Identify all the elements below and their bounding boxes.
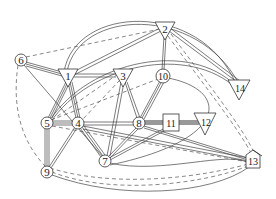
node-9[interactable]: 9 <box>41 166 53 178</box>
nodes: 1 2 3 4 5 6 7 8 <box>15 22 262 178</box>
svg-text:8: 8 <box>136 117 142 129</box>
svg-text:14: 14 <box>235 83 245 94</box>
edges <box>16 21 255 191</box>
node-2[interactable]: 2 <box>155 22 175 40</box>
svg-text:3: 3 <box>120 70 126 82</box>
node-1[interactable]: 1 <box>58 69 78 87</box>
node-3[interactable]: 3 <box>113 69 133 87</box>
node-5[interactable]: 5 <box>41 117 53 129</box>
node-10[interactable]: 10 <box>156 69 170 83</box>
svg-text:2: 2 <box>162 23 168 35</box>
svg-text:4: 4 <box>75 117 81 129</box>
node-4[interactable]: 4 <box>72 117 84 129</box>
node-6[interactable]: 6 <box>15 54 27 66</box>
node-14[interactable]: 14 <box>228 80 250 100</box>
node-8[interactable]: 8 <box>133 117 145 129</box>
svg-text:12: 12 <box>201 117 211 128</box>
node-13[interactable]: 13 <box>246 150 262 168</box>
svg-text:6: 6 <box>18 54 24 66</box>
svg-text:7: 7 <box>102 155 108 167</box>
svg-text:1: 1 <box>65 70 71 82</box>
svg-text:13: 13 <box>248 156 258 167</box>
svg-text:10: 10 <box>158 71 168 82</box>
diagram-svg: 1 2 3 4 5 6 7 8 <box>0 0 276 199</box>
node-7[interactable]: 7 <box>99 155 111 167</box>
network-diagram: 1 2 3 4 5 6 7 8 <box>0 0 276 199</box>
svg-text:9: 9 <box>44 166 50 178</box>
svg-text:11: 11 <box>166 118 176 129</box>
node-11[interactable]: 11 <box>163 114 179 131</box>
svg-text:5: 5 <box>44 117 50 129</box>
